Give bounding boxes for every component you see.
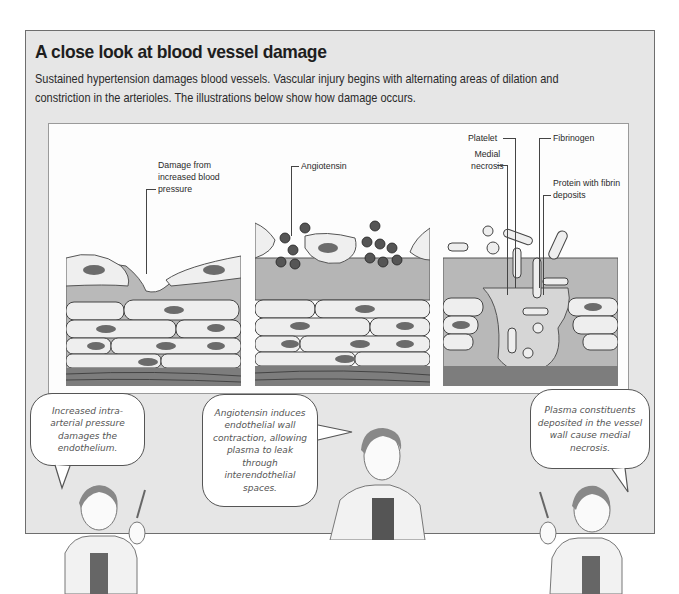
nurse-figure-center-icon <box>325 420 435 540</box>
nurse-figure-right-icon <box>530 478 640 594</box>
nurse-figure-left-icon <box>45 478 155 594</box>
